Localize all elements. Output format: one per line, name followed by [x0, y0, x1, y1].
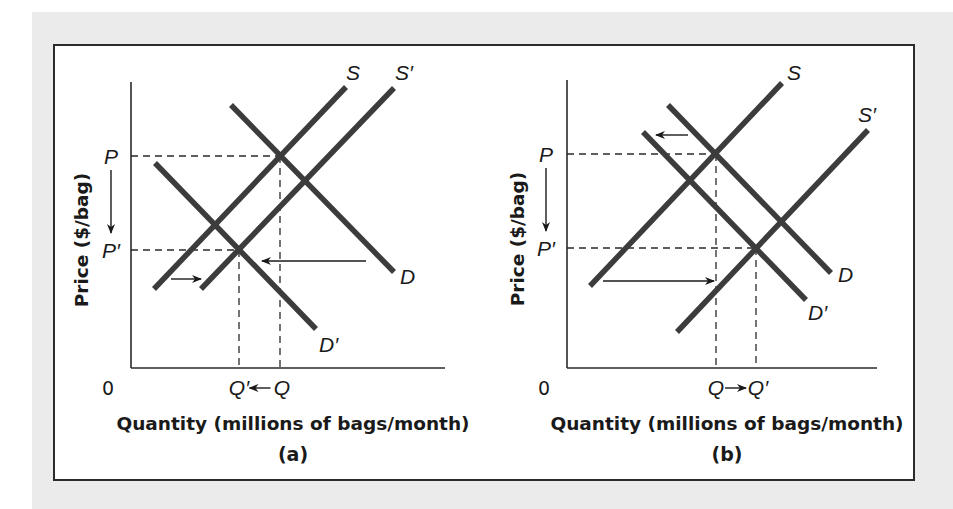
origin-label: 0: [538, 377, 550, 399]
origin-label: 0: [102, 377, 114, 399]
price-label-P-prime: P′: [537, 237, 556, 260]
quantity-label-right: Q: [274, 376, 290, 399]
curve-S: [590, 83, 782, 286]
curve-label-D-prime: D′: [808, 301, 828, 324]
curve-D: [231, 105, 394, 272]
price-label-P: P: [539, 143, 553, 166]
x-axis-title: Quantity (millions of bags/month): [550, 413, 903, 434]
curve-S-prime: [201, 88, 394, 289]
curve-label-S: S: [787, 61, 801, 84]
curve-label-D: D: [400, 265, 415, 288]
panel-b: SS′DD′PP′Price ($/bag)0QQ′Quantity (mill…: [507, 61, 904, 465]
panel-caption: (a): [278, 443, 308, 465]
curve-label-D: D: [838, 263, 853, 286]
price-label-P: P: [104, 145, 118, 168]
x-axis-title: Quantity (millions of bags/month): [116, 413, 469, 434]
curve-D-prime: [155, 163, 316, 329]
curve-label-S: S: [346, 61, 360, 84]
curve-label-S-prime: S′: [395, 61, 414, 84]
quantity-label-left: Q′: [229, 376, 250, 399]
quantity-label-left: Q: [708, 376, 724, 399]
panel-a: SS′DD′PP′Price ($/bag)0Q′QQuantity (mill…: [71, 61, 470, 465]
y-axis-title: Price ($/bag): [71, 173, 92, 308]
curve-label-S-prime: S′: [858, 103, 877, 126]
panel-caption: (b): [712, 443, 743, 465]
price-label-P-prime: P′: [102, 239, 121, 262]
supply-demand-figure: SS′DD′PP′Price ($/bag)0Q′QQuantity (mill…: [0, 0, 953, 509]
curve-label-D-prime: D′: [319, 333, 339, 356]
curve-D-prime: [643, 132, 806, 300]
quantity-label-right: Q′: [748, 376, 769, 399]
y-axis-title: Price ($/bag): [507, 172, 528, 307]
